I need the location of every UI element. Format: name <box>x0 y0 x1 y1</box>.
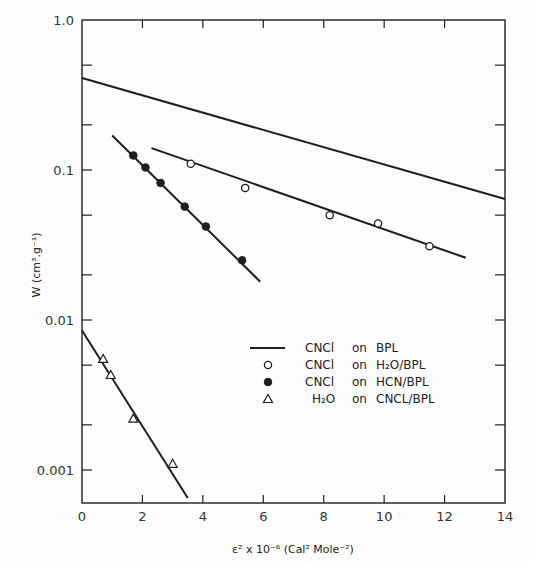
fit-line <box>82 331 188 498</box>
legend-on: on <box>352 341 367 355</box>
filled-circle-marker <box>202 223 210 231</box>
legend-substrate: CNCL/BPL <box>376 392 435 406</box>
x-tick-label: 4 <box>199 509 207 524</box>
x-tick-label: 8 <box>320 509 328 524</box>
fit-line <box>82 78 505 199</box>
open-triangle-marker <box>264 395 273 403</box>
x-tick-label: 2 <box>138 509 146 524</box>
axis-ticks: 024681012141.00.10.010.001 <box>37 13 513 524</box>
filled-circle-marker <box>157 179 165 187</box>
x-tick-label: 6 <box>259 509 267 524</box>
open-circle-marker <box>426 243 433 250</box>
legend-substrate: BPL <box>376 341 398 355</box>
legend-on: on <box>352 375 367 389</box>
legend: CNClonBPLCNClonH₂O/BPLCNClonHCN/BPLH₂Oon… <box>250 341 435 406</box>
filled-circle-marker <box>130 152 138 160</box>
legend-on: on <box>352 392 367 406</box>
y-axis-label: W (cm³.g⁻¹) <box>30 233 43 298</box>
legend-substance: CNCl <box>305 341 334 355</box>
x-tick-label: 0 <box>78 509 86 524</box>
legend-item: H₂OonCNCL/BPL <box>264 392 435 406</box>
filled-circle-marker <box>181 203 189 211</box>
filled-circle-marker <box>142 164 150 172</box>
series-h2o-on-cncl-bpl <box>82 331 188 498</box>
x-tick-label: 12 <box>436 509 453 524</box>
x-tick-label: 14 <box>497 509 514 524</box>
chart: 024681012141.00.10.010.001 CNClonBPLCNCl… <box>0 0 533 563</box>
open-circle-marker <box>326 212 333 219</box>
open-triangle-marker <box>168 459 177 467</box>
legend-item: CNClonHCN/BPL <box>264 375 429 389</box>
fit-line <box>151 148 465 258</box>
y-tick-label: 0.1 <box>53 163 74 178</box>
y-tick-label: 0.01 <box>45 313 74 328</box>
legend-item: CNClonBPL <box>250 341 398 355</box>
x-tick-label: 10 <box>376 509 393 524</box>
legend-substance: CNCl <box>305 375 334 389</box>
y-tick-label: 1.0 <box>53 13 74 28</box>
x-axis-label: ε² x 10⁻⁶ (Cal² Mole⁻²) <box>232 543 354 556</box>
series-cncl-on-hcn-bpl <box>112 135 260 281</box>
open-circle-marker <box>187 160 194 167</box>
series-cncl-on-bpl <box>82 78 505 199</box>
open-circle-marker <box>375 220 382 227</box>
y-tick-label: 0.001 <box>37 463 74 478</box>
series-cncl-on-h2o-bpl <box>151 148 465 258</box>
filled-circle-marker <box>238 257 246 265</box>
open-circle-marker <box>242 184 249 191</box>
legend-on: on <box>352 358 367 372</box>
open-circle-marker <box>264 361 271 368</box>
legend-substrate: H₂O/BPL <box>376 358 426 372</box>
data-series <box>82 78 505 498</box>
filled-circle-marker <box>264 378 272 386</box>
legend-item: CNClonH₂O/BPL <box>264 358 425 372</box>
legend-substrate: HCN/BPL <box>376 375 429 389</box>
legend-substance: CNCl <box>305 358 334 372</box>
legend-substance: H₂O <box>312 392 335 406</box>
